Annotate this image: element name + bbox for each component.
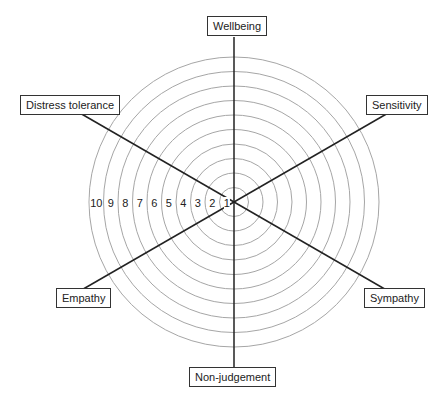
ring-number-8: 8 (122, 197, 128, 209)
axis-label-distress-tolerance: Distress tolerance (20, 95, 120, 115)
ring-number-2: 2 (209, 197, 215, 209)
ring-number-7: 7 (137, 197, 143, 209)
ring-number-9: 9 (108, 197, 114, 209)
ring-number-1: 1 (224, 197, 230, 209)
axis-label-empathy: Empathy (56, 288, 111, 308)
radar-wheel (0, 0, 439, 404)
axis-label-sympathy: Sympathy (364, 288, 425, 308)
ring-number-3: 3 (195, 197, 201, 209)
ring-number-6: 6 (151, 197, 157, 209)
axis-label-sensitivity: Sensitivity (366, 95, 428, 115)
ring-number-10: 10 (90, 197, 102, 209)
axis-label-wellbeing: Wellbeing (207, 16, 267, 36)
ring-number-5: 5 (166, 197, 172, 209)
ring-number-4: 4 (180, 197, 186, 209)
axis-label-non-judgement: Non-judgement (189, 367, 276, 387)
